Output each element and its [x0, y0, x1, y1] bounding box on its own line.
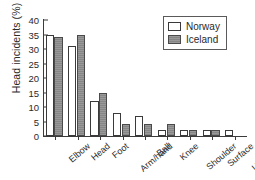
bar-group — [134, 20, 156, 136]
bar-norway-unknown — [225, 130, 233, 136]
x-axis-label-foot: Foot — [110, 141, 130, 160]
y-tick-label: 20 — [28, 73, 39, 84]
y-tick-label: 10 — [28, 102, 39, 113]
bar-iceland-arm-hand — [122, 124, 130, 136]
legend-item-norway: Norway — [168, 20, 220, 33]
x-tick-mark — [235, 136, 236, 140]
bar-norway-arm-hand — [113, 113, 121, 136]
x-tick-mark — [55, 136, 56, 140]
x-axis-label-knee: Knee — [178, 141, 201, 162]
legend-label-iceland: Iceland — [186, 34, 218, 45]
legend: Norway Iceland — [163, 16, 227, 50]
x-axis-labels: ElbowHeadFootArm/handBallKneeShoulderSur… — [44, 141, 246, 180]
legend-label-norway: Norway — [186, 21, 220, 32]
bar-chart: Head incidents (%) 0510152025303540 Elbo… — [0, 0, 255, 180]
x-tick-mark — [100, 136, 101, 140]
bar-group — [44, 20, 66, 136]
bar-norway-head — [68, 46, 76, 136]
bar-norway-surface — [203, 130, 211, 136]
bar-norway-foot — [90, 101, 98, 136]
bar-group — [111, 20, 133, 136]
bar-iceland-ball — [144, 124, 152, 136]
y-tick-label: 0 — [34, 131, 39, 142]
y-tick-label: 35 — [28, 29, 39, 40]
y-tick-label: 15 — [28, 87, 39, 98]
y-tick-label: 30 — [28, 44, 39, 55]
bar-norway-knee — [158, 130, 166, 136]
legend-swatch-norway-icon — [168, 22, 181, 31]
y-axis-title: Head incidents (%) — [10, 0, 22, 108]
bar-norway-elbow — [46, 35, 54, 137]
x-tick-mark — [78, 136, 79, 140]
bar-group — [66, 20, 88, 136]
x-tick-mark — [212, 136, 213, 140]
x-tick-mark — [145, 136, 146, 140]
bar-group — [224, 20, 246, 136]
y-tick-label: 40 — [28, 15, 39, 26]
bar-norway-ball — [135, 116, 143, 136]
y-tick-label: 25 — [28, 58, 39, 69]
y-tick-label: 5 — [34, 116, 39, 127]
x-tick-mark — [123, 136, 124, 140]
x-tick-mark — [167, 136, 168, 140]
x-axis-label-head: Head — [89, 141, 112, 162]
bar-iceland-head — [77, 35, 85, 137]
x-axis-label-elbow: Elbow — [67, 141, 92, 164]
legend-item-iceland: Iceland — [168, 33, 220, 46]
legend-swatch-iceland-icon — [168, 35, 181, 44]
x-tick-mark — [190, 136, 191, 140]
bar-group — [89, 20, 111, 136]
bar-iceland-knee — [167, 124, 175, 136]
bar-iceland-foot — [99, 93, 107, 137]
bar-norway-shoulder — [180, 130, 188, 136]
bar-iceland-elbow — [54, 37, 62, 136]
